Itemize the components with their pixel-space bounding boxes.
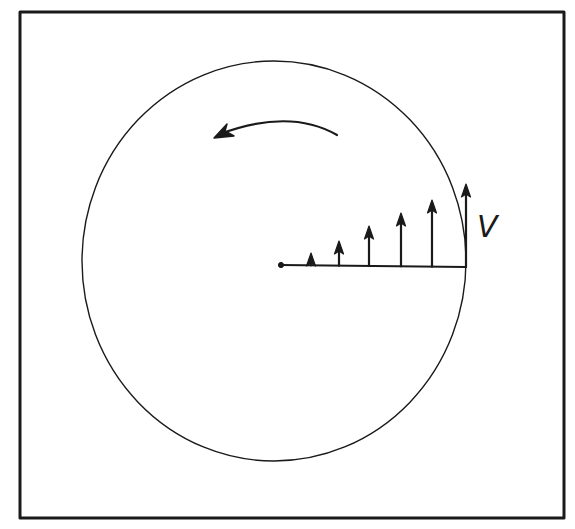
velocity-vectors [307,184,471,267]
velocity-arrow-icon [307,253,316,266]
velocity-arrow-icon [365,226,374,266]
velocity-label: V [477,212,498,242]
velocity-arrow-icon [397,213,406,266]
rotation-arrow-icon [214,121,337,138]
velocity-arrow-icon [335,241,344,266]
origin-dot [278,262,283,267]
rotating-disk-diagram [0,0,575,529]
velocity-arrow-icon [428,200,437,267]
